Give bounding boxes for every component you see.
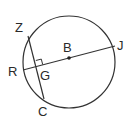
label-z: Z	[15, 20, 23, 35]
label-j: J	[117, 38, 124, 53]
center-point-b	[67, 56, 71, 60]
circle	[23, 16, 115, 108]
label-b: B	[63, 40, 72, 55]
circle-diagram: Z C R J B G	[0, 0, 129, 122]
label-r: R	[8, 64, 17, 79]
label-g: G	[40, 68, 50, 83]
label-c: C	[38, 104, 47, 119]
right-angle-marker	[36, 59, 43, 65]
